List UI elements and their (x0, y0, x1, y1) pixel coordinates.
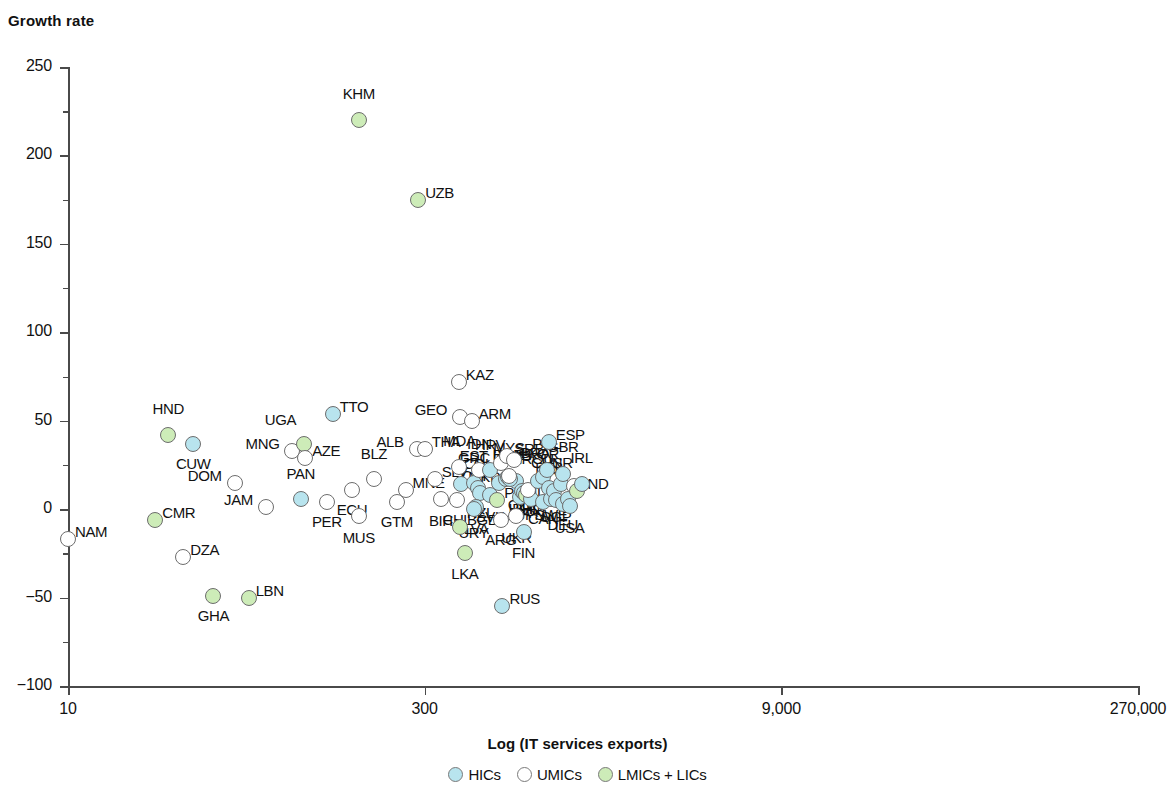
point-label: KAZ (466, 367, 494, 382)
y-tick-label: 200 (0, 145, 52, 163)
data-point[interactable] (452, 519, 468, 535)
point-label: NAM (75, 524, 107, 539)
data-point[interactable] (449, 492, 465, 508)
x-tick (68, 686, 70, 695)
point-label: UZB (425, 185, 454, 200)
x-tick-label: 9,000 (711, 700, 851, 718)
data-point[interactable] (319, 494, 335, 510)
data-point[interactable] (366, 471, 382, 487)
y-tick-label: 250 (0, 57, 52, 75)
y-tick-label: −50 (0, 588, 52, 606)
point-label: DOM (188, 468, 222, 483)
data-point[interactable] (227, 475, 243, 491)
point-label: KHM (343, 86, 375, 101)
data-point[interactable] (297, 450, 313, 466)
y-minor-tick (63, 642, 68, 643)
data-point[interactable] (258, 499, 274, 515)
legend-swatch-icon (448, 767, 463, 782)
chart-legend: HICsUMICsLMICs + LICs (0, 766, 1155, 783)
data-point[interactable] (493, 512, 509, 528)
x-axis-title: Log (IT services exports) (0, 735, 1155, 752)
x-tick-label: 300 (355, 700, 495, 718)
point-label: CMR (162, 505, 195, 520)
point-label: MUS (343, 530, 375, 545)
y-tick (60, 67, 68, 69)
point-label: USA (555, 520, 585, 535)
y-tick (60, 155, 68, 157)
y-minor-tick (63, 553, 68, 554)
point-label: ALB (377, 434, 404, 449)
x-tick (425, 686, 427, 695)
data-point[interactable] (417, 441, 433, 457)
data-point[interactable] (466, 501, 482, 517)
data-point[interactable] (293, 491, 309, 507)
data-point[interactable] (185, 436, 201, 452)
y-tick (60, 686, 68, 688)
y-axis-line (68, 67, 70, 687)
point-label: IRL (571, 450, 593, 465)
legend-item-lmics-lics[interactable]: LMICs + LICs (598, 766, 707, 783)
y-tick (60, 421, 68, 423)
data-point[interactable] (398, 482, 414, 498)
point-label: JAM (224, 492, 253, 507)
data-point[interactable] (562, 498, 578, 514)
data-point[interactable] (427, 471, 443, 487)
data-point[interactable] (539, 462, 555, 478)
x-tick (1138, 686, 1140, 695)
data-point[interactable] (494, 598, 510, 614)
data-point[interactable] (344, 482, 360, 498)
y-tick (60, 598, 68, 600)
data-point[interactable] (205, 588, 221, 604)
point-label: GHA (198, 608, 229, 623)
x-tick-label: 270,000 (1068, 700, 1171, 718)
point-label: LBN (256, 583, 284, 598)
data-point[interactable] (241, 590, 257, 606)
y-tick (60, 332, 68, 334)
y-tick (60, 244, 68, 246)
y-minor-tick (63, 111, 68, 112)
data-point[interactable] (351, 508, 367, 524)
data-point[interactable] (489, 492, 505, 508)
y-minor-tick (63, 200, 68, 201)
x-axis-line (68, 686, 1139, 688)
y-minor-tick (63, 377, 68, 378)
data-point[interactable] (516, 524, 532, 540)
data-point[interactable] (325, 406, 341, 422)
data-point[interactable] (175, 549, 191, 565)
legend-item-hics[interactable]: HICs (448, 766, 501, 783)
point-label: PAN (286, 466, 315, 481)
point-label: HND (153, 401, 184, 416)
point-label: ARM (479, 406, 511, 421)
legend-label: UMICs (537, 766, 582, 783)
data-point[interactable] (501, 468, 517, 484)
legend-item-umics[interactable]: UMICs (517, 766, 582, 783)
data-point[interactable] (506, 452, 522, 468)
data-point[interactable] (351, 112, 367, 128)
data-point[interactable] (160, 427, 176, 443)
data-point[interactable] (464, 413, 480, 429)
legend-label: HICs (468, 766, 501, 783)
point-label: LKA (451, 566, 478, 581)
point-label: MNG (246, 436, 280, 451)
y-tick-label: −100 (0, 676, 52, 694)
point-label: DZA (190, 542, 219, 557)
data-point[interactable] (574, 476, 590, 492)
data-point[interactable] (451, 374, 467, 390)
data-point[interactable] (147, 512, 163, 528)
data-point[interactable] (410, 192, 426, 208)
y-minor-tick (63, 288, 68, 289)
y-tick-label: 0 (0, 499, 52, 517)
point-label: GTM (381, 514, 413, 529)
y-tick-label: 50 (0, 411, 52, 429)
data-point[interactable] (541, 434, 557, 450)
data-point[interactable] (60, 531, 76, 547)
data-point[interactable] (457, 545, 473, 561)
data-point[interactable] (433, 491, 449, 507)
legend-swatch-icon (598, 767, 613, 782)
point-label: UGA (265, 412, 296, 427)
legend-swatch-icon (517, 767, 532, 782)
point-label: AZE (312, 443, 340, 458)
point-label: RUS (509, 591, 539, 606)
y-tick-label: 150 (0, 234, 52, 252)
